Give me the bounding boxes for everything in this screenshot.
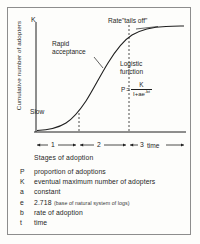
logistic-equation: P = K I+ae-bt (121, 82, 152, 97)
chart-plot-area: Cumulative number of adopters K Rate"tai… (8, 8, 192, 148)
y-axis-label: Cumulative number of adopters (15, 20, 22, 112)
legend-key: e (20, 199, 34, 206)
legend-row: a constant (20, 188, 190, 195)
legend-desc: constant (34, 188, 61, 195)
annotation-logistic-function: Logistic function (120, 60, 143, 76)
figure-frame: Cumulative number of adopters K Rate"tai… (7, 7, 191, 235)
x-axis-caption: Stages of adoption (34, 154, 93, 161)
annotation-rate-tails-off: Rate"tails off" (108, 17, 147, 24)
legend-desc: time (34, 219, 47, 226)
chart-svg (8, 8, 192, 148)
legend-desc: rate of adoption (34, 209, 83, 216)
annotation-rapid-line1: Rapid (52, 40, 86, 48)
annotation-slow: Slow (30, 108, 44, 115)
legend-key: b (20, 209, 34, 216)
stage-axis: 1 2 3 time (8, 140, 192, 152)
time-axis-label: time (147, 142, 159, 149)
equation-numerator: K (136, 82, 146, 89)
symbol-legend: P proportion of adoptions K eventual max… (20, 168, 190, 229)
legend-row: K eventual maximum number of adopters (20, 178, 190, 185)
legend-desc: 2.718 (34, 199, 52, 206)
legend-key: P (20, 168, 34, 175)
stage-label-1: 1 (51, 141, 55, 148)
rapid-acceptance-leader (94, 57, 103, 68)
legend-key: a (20, 188, 34, 195)
legend-row: e 2.718 (base of natural system of logs) (20, 199, 190, 206)
annotation-logistic-line2: function (120, 68, 143, 76)
figure-page: Cumulative number of adopters K Rate"tai… (0, 0, 200, 244)
legend-desc: proportion of adoptions (34, 168, 106, 175)
stage-label-2: 2 (97, 141, 101, 148)
legend-desc: eventual maximum number of adopters (34, 178, 155, 185)
legend-note: (base of natural system of logs) (54, 200, 130, 206)
legend-key: K (20, 178, 34, 185)
equation-denominator-base: I+ae (133, 91, 145, 97)
legend-row: P proportion of adoptions (20, 168, 190, 175)
y-axis-k-tick: K (31, 16, 36, 23)
equation-equals: = (126, 86, 130, 93)
equation-fraction: K I+ae-bt (131, 82, 152, 97)
annotation-rapid-acceptance: Rapid acceptance (52, 40, 86, 56)
stage-label-3: 3 (140, 141, 144, 148)
annotation-rapid-line2: acceptance (52, 48, 86, 56)
legend-row: t time (20, 219, 190, 226)
legend-row: b rate of adoption (20, 209, 190, 216)
equation-lhs: P (121, 86, 125, 93)
annotation-logistic-line1: Logistic (120, 60, 143, 68)
equation-denominator: I+ae-bt (131, 89, 152, 98)
legend-key: t (20, 219, 34, 226)
equation-denominator-exponent: -bt (145, 89, 150, 94)
